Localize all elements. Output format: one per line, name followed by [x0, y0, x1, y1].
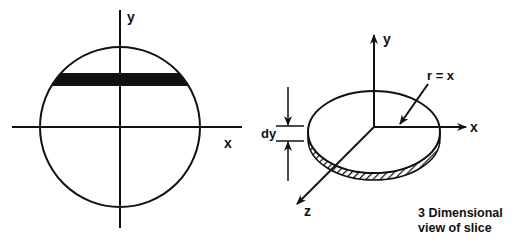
- z-axis-label-3d: z: [304, 203, 311, 219]
- circle-cross-section: y x: [12, 9, 242, 228]
- caption-line-1: 3 Dimensional: [418, 206, 503, 221]
- radius-label: r = x: [427, 68, 455, 83]
- x-axis-label: x: [224, 135, 232, 151]
- disk-3d-view: r = x y x z dy: [261, 31, 478, 219]
- y-axis-label-3d: y: [383, 31, 391, 47]
- x-axis-label-3d: x: [470, 119, 478, 135]
- caption-line-2: view of slice: [418, 221, 503, 236]
- caption: 3 Dimensional view of slice: [418, 206, 503, 236]
- dy-label: dy: [261, 126, 277, 141]
- y-axis-label: y: [127, 9, 135, 25]
